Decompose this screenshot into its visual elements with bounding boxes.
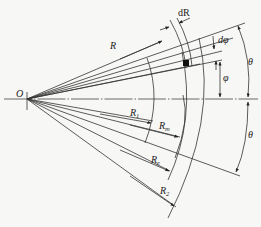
ray-dphi-a: [27, 51, 222, 99]
ray-R2: [27, 99, 176, 207]
theta-lower-arc: [236, 102, 248, 172]
ray-Rm: [27, 99, 180, 137]
ray-Re: [27, 99, 170, 171]
arrow-R1: [100, 114, 151, 123]
dphi-arrow: [213, 36, 214, 49]
sector-geometry-diagram: O R dR dφ φ θ θ R1 Rm Re R2: [0, 0, 261, 227]
ray-element-outer: [27, 38, 233, 99]
arrow-Rm: [130, 125, 178, 137]
phi-label: φ: [223, 72, 229, 83]
dR-label: dR: [178, 7, 190, 18]
dR-arrow-right: [179, 18, 190, 23]
Re-label: Re: [150, 154, 160, 166]
arc-Re: [168, 52, 187, 180]
Rm-label: Rm: [158, 120, 170, 132]
origin-label: O: [16, 88, 23, 99]
theta-lower-label: θ: [248, 129, 253, 140]
R1-label: R1: [129, 107, 139, 119]
element-square: [183, 60, 189, 66]
dR-arrow-left: [160, 27, 169, 30]
arrow-Re: [120, 150, 169, 171]
theta-upper-label: θ: [248, 56, 253, 67]
ray-upper-theta: [27, 23, 245, 99]
radius-label: R: [109, 40, 116, 51]
R2-label: R2: [159, 185, 170, 197]
arrow-R: [120, 41, 162, 59]
dphi-label: dφ: [218, 34, 229, 45]
arc-Rm: [175, 95, 185, 158]
